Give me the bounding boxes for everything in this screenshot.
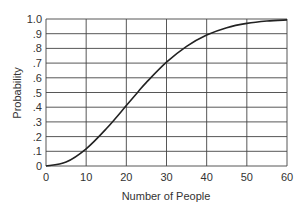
x-axis-ticks: 0102030405060 xyxy=(43,171,293,183)
y-tick-label: .2 xyxy=(33,131,42,143)
x-tick-label: 0 xyxy=(43,171,49,183)
y-tick-label: .6 xyxy=(33,72,42,84)
y-tick-label: .3 xyxy=(33,116,42,128)
y-tick-label: .1 xyxy=(33,145,42,157)
x-tick-label: 50 xyxy=(241,171,253,183)
y-tick-label: .9 xyxy=(33,28,42,40)
grid-lines xyxy=(46,19,287,166)
x-axis-label: Number of People xyxy=(122,190,211,202)
x-tick-label: 40 xyxy=(201,171,213,183)
y-tick-label: .8 xyxy=(33,42,42,54)
y-tick-label: .4 xyxy=(33,101,42,113)
y-tick-label: .7 xyxy=(33,57,42,69)
y-axis-ticks: 0.1.2.3.4.5.6.7.8.91.0 xyxy=(27,13,42,172)
y-axis-label: Probability xyxy=(11,67,23,119)
y-tick-label: 0 xyxy=(36,160,42,172)
y-tick-label: .5 xyxy=(33,87,42,99)
x-tick-label: 60 xyxy=(281,171,293,183)
x-tick-label: 30 xyxy=(160,171,172,183)
x-tick-label: 20 xyxy=(120,171,132,183)
probability-chart: 0.1.2.3.4.5.6.7.8.91.0 0102030405060 Num… xyxy=(0,0,306,213)
y-tick-label: 1.0 xyxy=(27,13,42,25)
x-tick-label: 10 xyxy=(80,171,92,183)
